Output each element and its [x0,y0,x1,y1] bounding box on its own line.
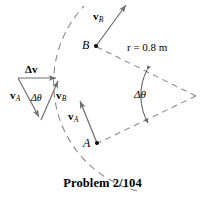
point-b-label: B [82,39,89,51]
point-b-text: B [82,38,89,52]
velocity-b-subscript: B [99,15,104,24]
delta-theta-triangle-label: Δθ [31,93,42,103]
v-b-triangle-subscript: B [62,94,67,103]
delta-theta-wedge-label: Δθ [134,89,146,100]
point-a-marker [95,141,99,145]
radius-label: r = 0.8 m [127,42,167,53]
point-a-label: A [83,137,90,149]
velocity-a-subscript: A [74,115,79,124]
radius-line-a [98,96,196,143]
figure-caption: Problem 2/104 [0,176,205,191]
point-b-marker [94,44,98,48]
velocity-a-label: vA [68,111,78,123]
point-a-text: A [83,136,90,150]
velocity-b-symbol: v [93,10,99,22]
v-a-triangle-symbol: v [10,89,16,101]
figure-container: B A r = 0.8 m Δθ vB vA Δv vA vB Δθ Probl… [0,0,205,198]
velocity-b-label: vB [93,11,103,23]
radius-text: r = 0.8 m [127,41,167,53]
delta-theta-triangle-text: Δθ [31,92,42,103]
delta-v-text: Δv [25,63,37,75]
v-a-triangle-label: vA [10,90,20,102]
velocity-a-symbol: v [68,110,74,122]
v-b-triangle-symbol: v [56,89,62,101]
v-b-triangle-label: vB [56,90,66,102]
v-a-triangle-subscript: A [16,94,21,103]
delta-v-label: Δv [25,64,37,75]
delta-theta-wedge-text: Δθ [134,88,146,100]
